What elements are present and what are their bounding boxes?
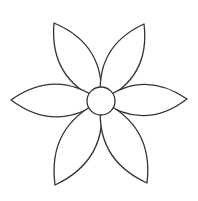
flower-center bbox=[87, 87, 115, 115]
flower-drawing bbox=[0, 0, 198, 201]
flower-svg bbox=[0, 0, 198, 201]
